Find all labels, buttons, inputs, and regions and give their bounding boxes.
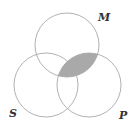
label-m: M	[97, 11, 111, 24]
venn-diagram: M S P	[0, 0, 133, 134]
circle-s	[14, 53, 78, 117]
label-s: S	[9, 107, 17, 120]
label-p: P	[118, 109, 128, 122]
